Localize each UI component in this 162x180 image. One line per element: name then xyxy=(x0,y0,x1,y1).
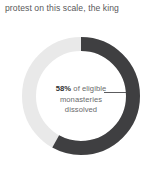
page-root: protest on this scale, the king 58% of e… xyxy=(0,0,162,180)
callout-label: 58% of eligible monasteries dissolved xyxy=(24,84,138,116)
callout-percent: 58% xyxy=(56,84,71,93)
callout-line-3: dissolved xyxy=(24,105,138,116)
callout-line-2: monasteries xyxy=(24,95,138,106)
donut-chart-figure: 58% of eligible monasteries dissolved xyxy=(0,0,162,180)
callout-line-1-rest: of eligible xyxy=(71,84,106,93)
callout-line-1: 58% of eligible xyxy=(24,84,138,95)
